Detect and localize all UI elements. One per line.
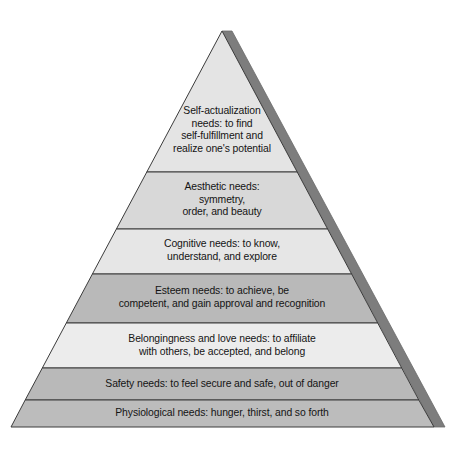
pyramid-tier-self-actualization: [147, 31, 297, 172]
pyramid-tier-belongingness: [42, 323, 401, 368]
pyramid-tier-aesthetic: [116, 172, 327, 229]
pyramid-graphic: [0, 0, 464, 449]
pyramid-tier-physiological: [11, 400, 434, 427]
pyramid-tier-cognitive: [92, 229, 351, 274]
maslow-pyramid-figure: Self-actualization needs: to find self-f…: [0, 0, 464, 449]
pyramid-tier-safety: [25, 368, 419, 400]
pyramid-tier-esteem: [66, 274, 377, 323]
